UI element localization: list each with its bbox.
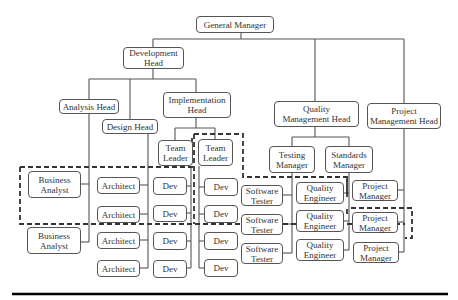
org-node-pmh: Project Management Head [367,103,441,129]
org-node-design: Design Head [102,119,158,134]
org-node-st2: Software Tester [241,214,283,235]
org-node-ar3: Architect [97,232,140,249]
org-node-d6: Dev [204,205,238,223]
org-node-pm3: Project Manager [353,242,399,263]
org-node-impl: Implementation Head [163,92,231,118]
org-node-pm2: Project Manager [352,212,398,233]
org-node-devhead: Development Head [123,47,184,69]
org-node-d5: Dev [204,178,238,196]
org-node-st3: Software Tester [241,243,283,264]
org-node-d3: Dev [153,232,187,250]
org-node-tm: Testing Manager [269,146,315,173]
org-node-ba2: Business Analyst [27,227,81,254]
org-node-ar2: Architect [97,206,140,223]
org-node-d2: Dev [153,205,187,222]
org-chart: General ManagerDevelopment HeadAnalysis … [0,0,458,300]
org-node-sm: Standards Manager [325,146,373,173]
org-node-st1: Software Tester [241,185,283,206]
org-node-d7: Dev [204,232,238,250]
org-node-ar4: Architect [97,260,140,277]
org-node-pm1: Project Manager [352,180,398,201]
org-node-d1: Dev [153,177,187,195]
org-node-qmh: Quality Management Head [274,101,359,127]
org-node-ba1: Business Analyst [28,171,81,198]
org-node-gm: General Manager [196,16,274,33]
org-node-tl2: Team Leader [198,139,233,166]
org-node-qe2: Quality Engineer [296,210,344,232]
org-node-d8: Dev [204,259,238,277]
org-node-d4: Dev [153,260,187,278]
org-node-qe1: Quality Engineer [296,182,344,204]
org-node-ar1: Architect [97,177,140,194]
org-node-analysis: Analysis Head [59,99,119,114]
org-node-qe3: Quality Engineer [296,239,344,261]
org-node-tl1: Team Leader [158,140,193,166]
